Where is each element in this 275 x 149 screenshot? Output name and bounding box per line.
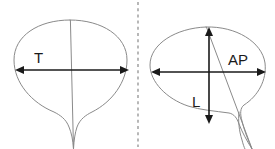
transverse-measure-label: T (34, 49, 43, 66)
sagittal-bladder-panel: AP L (150, 27, 266, 149)
diagram-canvas: T AP L (0, 0, 275, 149)
transverse-measure-arrow (15, 66, 129, 74)
longitudinal-measure-label: L (192, 93, 200, 110)
ap-arrow-head-left (151, 68, 160, 76)
transverse-arrow-head-left (15, 66, 24, 74)
bladder-measurement-diagram: T AP L (0, 0, 275, 149)
bladder-outline-transverse (14, 20, 127, 149)
bladder-outline-sagittal (150, 27, 265, 149)
ap-measure-label: AP (228, 51, 248, 68)
transverse-arrow-head-right (120, 66, 129, 74)
transverse-bladder-panel: T (14, 20, 129, 149)
longitudinal-arrow-head-bottom (205, 115, 213, 124)
